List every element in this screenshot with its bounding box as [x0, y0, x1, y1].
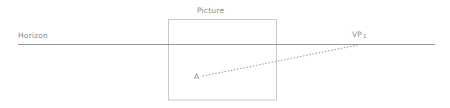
perspective-diagram: Horizon Picture A VP1: [0, 0, 450, 108]
vanishing-point-subscript: 1: [362, 33, 367, 39]
point-a-label: A: [194, 73, 199, 81]
horizon-label: Horizon: [18, 32, 48, 40]
vanishing-point-text: VP: [352, 30, 362, 39]
picture-plane-rectangle: [169, 20, 277, 101]
diagram-canvas: [0, 0, 450, 108]
picture-label: Picture: [197, 7, 224, 15]
sight-line-a-to-vanishing-point: [203, 45, 358, 76]
vanishing-point-label: VP1: [352, 31, 367, 39]
